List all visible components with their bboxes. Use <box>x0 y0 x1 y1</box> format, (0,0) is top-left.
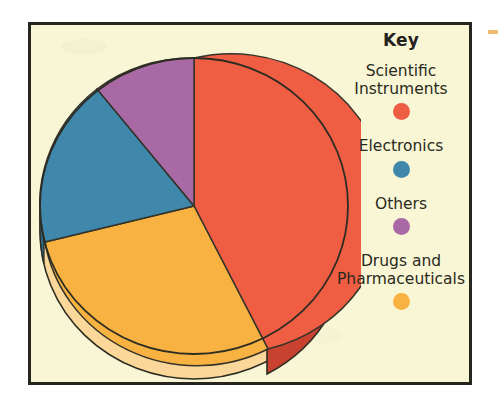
figure-root: Key Scientific Instruments Electronics O… <box>0 0 500 407</box>
legend-swatch-scientific-instruments <box>393 103 410 120</box>
legend-entry-scientific-instruments[interactable]: Scientific Instruments <box>331 62 471 121</box>
legend-swatch-electronics <box>393 161 410 178</box>
pie-chart-figure-panel: Key Scientific Instruments Electronics O… <box>28 22 472 385</box>
legend: Key Scientific Instruments Electronics O… <box>331 31 471 319</box>
legend-entry-drugs-pharmaceuticals[interactable]: Drugs and Pharmaceuticals <box>331 252 471 311</box>
legend-swatch-drugs-pharmaceuticals <box>393 293 410 310</box>
legend-label-drugs-pharmaceuticals: Drugs and Pharmaceuticals <box>331 252 471 289</box>
pie-chart <box>31 25 361 382</box>
pie-top-surface <box>40 54 361 366</box>
legend-label-electronics: Electronics <box>331 137 471 155</box>
legend-entry-others[interactable]: Others <box>331 195 471 235</box>
legend-swatch-others <box>393 218 410 235</box>
legend-title: Key <box>331 31 471 50</box>
pie-chart-svg <box>31 25 361 382</box>
legend-entry-electronics[interactable]: Electronics <box>331 137 471 177</box>
legend-label-scientific-instruments: Scientific Instruments <box>331 62 471 99</box>
edge-tick-mark <box>488 30 498 34</box>
legend-label-others: Others <box>331 195 471 213</box>
